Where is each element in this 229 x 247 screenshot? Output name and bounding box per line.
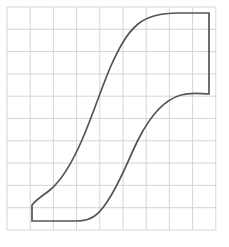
- image-canvas: [0, 0, 229, 247]
- ogee-s-curve-profile: [32, 13, 209, 221]
- graph-paper-grid: [7, 7, 216, 230]
- figure-svg: [0, 0, 229, 247]
